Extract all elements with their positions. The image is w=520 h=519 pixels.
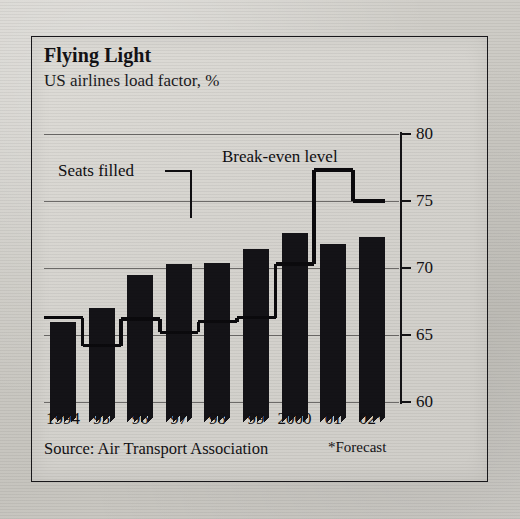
x-axis-label-99: 99 (236, 409, 276, 429)
plot-area: 80 75 70 65 60 1994959697989920000102* S… (32, 37, 487, 481)
break-even-riser-97 (158, 319, 162, 332)
bar-95[interactable] (89, 308, 115, 415)
x-axis-label-1994: 1994 (43, 409, 83, 429)
break-even-segment-97 (160, 331, 199, 335)
bar-98[interactable] (204, 263, 230, 415)
break-even-segment-96 (121, 317, 160, 321)
chart-frame: Flying Light US airlines load factor, % … (31, 36, 488, 482)
y-tick-80 (400, 133, 411, 135)
x-axis-label-96: 96 (120, 409, 160, 429)
x-axis-label-01: 01 (313, 409, 353, 429)
x-axis-label-95: 95 (82, 409, 122, 429)
seats-filled-leader-horizontal (165, 170, 192, 172)
bar-01[interactable] (320, 244, 346, 415)
break-even-riser-99 (235, 318, 239, 322)
bar-96[interactable] (127, 275, 153, 415)
y-tick-65 (400, 334, 411, 336)
break-even-segment-95 (83, 344, 122, 348)
break-even-riser-2000 (274, 264, 278, 318)
x-axis-label-97: 97 (159, 409, 199, 429)
y-tick-70 (400, 267, 411, 269)
break-even-segment-99 (237, 316, 276, 320)
x-axis-label-02*: 02* (352, 409, 392, 429)
break-even-segment-98 (198, 320, 237, 324)
bar-99[interactable] (243, 249, 269, 415)
break-even-riser-95 (81, 318, 85, 346)
x-axis-label-98: 98 (197, 409, 237, 429)
break-even-riser-96 (119, 319, 123, 346)
break-even-segment-2000 (276, 262, 315, 266)
gridline-75 (44, 201, 399, 202)
bar-97[interactable] (166, 264, 192, 415)
y-tick-label-80: 80 (416, 124, 433, 144)
forecast-note: *Forecast (328, 439, 386, 456)
bar-2000[interactable] (282, 233, 308, 415)
x-axis-label-2000: 2000 (275, 409, 315, 429)
break-even-riser-98 (197, 322, 201, 333)
break-even-riser-02* (351, 170, 355, 201)
y-tick-label-75: 75 (416, 191, 433, 211)
bar-1994[interactable] (50, 322, 76, 415)
seats-filled-annotation: Seats filled (58, 161, 134, 181)
seats-filled-leader-vertical (190, 170, 192, 218)
bar-02*[interactable] (359, 237, 385, 415)
y-tick-60 (400, 401, 411, 403)
break-even-segment-01 (314, 168, 353, 172)
break-even-riser-01 (312, 170, 316, 264)
break-even-segment-1994 (44, 316, 83, 320)
break-even-annotation: Break-even level (222, 147, 338, 167)
source-note: Source: Air Transport Association (44, 439, 268, 459)
y-tick-label-60: 60 (416, 392, 433, 412)
y-tick-75 (400, 200, 411, 202)
y-tick-label-70: 70 (416, 258, 433, 278)
y-tick-label-65: 65 (416, 325, 433, 345)
gridline-80 (44, 134, 399, 135)
break-even-segment-02* (353, 199, 386, 203)
